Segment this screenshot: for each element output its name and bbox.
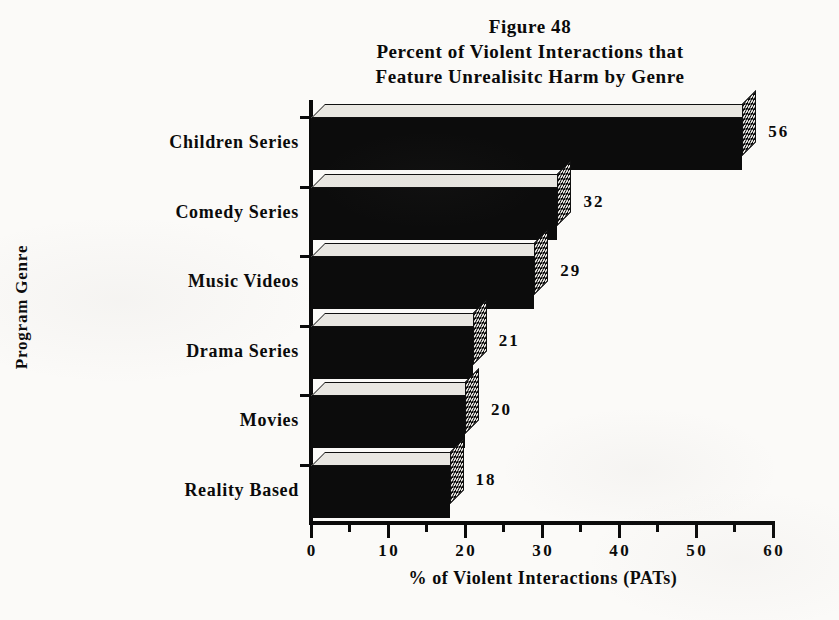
bar-value-label: 56 [766,122,789,142]
y-tick-3 [300,325,310,328]
bar-top-face [311,313,487,327]
category-label-music-videos: Music Videos [39,271,299,292]
y-tick-5 [300,464,310,467]
category-label-drama-series: Drama Series [39,341,299,362]
x-tick-label-10: 10 [358,541,418,561]
x-tick-label-50: 50 [666,541,726,561]
bar-front-face [311,466,450,518]
x-tick-55 [733,525,736,532]
x-tick-label-60: 60 [743,541,803,561]
bar-front-face [311,327,473,379]
x-tick-45 [656,525,659,532]
bar-value-label: 32 [581,192,604,212]
bar-value-label: 29 [558,261,581,281]
bar-value-label: 20 [489,400,512,420]
bar-top-face [311,243,548,257]
x-tick-label-20: 20 [435,541,495,561]
x-tick-60 [772,525,775,538]
x-tick-10 [387,525,390,538]
bar-end-cap-face [742,90,756,156]
bar-end-cap-face [534,229,548,295]
category-label-reality-based: Reality Based [39,480,299,501]
bar-front-face [311,118,742,170]
x-tick-40 [618,525,621,538]
bar-top-face [311,174,571,188]
bar-top-face [311,382,479,396]
x-tick-5 [348,525,351,532]
bar-top-face [311,452,464,466]
bar-front-face [311,396,465,448]
x-tick-15 [425,525,428,532]
category-label-movies: Movies [39,410,299,431]
y-tick-0 [300,116,310,119]
x-tick-30 [541,525,544,538]
category-label-comedy-series: Comedy Series [39,202,299,223]
y-tick-1 [300,186,310,189]
bar-front-face [311,257,534,309]
y-tick-4 [300,394,310,397]
figure-canvas: Figure 48 Percent of Violent Interaction… [0,0,839,620]
bar-value-label: 18 [474,470,497,490]
x-tick-25 [502,525,505,532]
bar-front-face [311,188,557,240]
x-tick-0 [310,525,313,538]
bar-value-label: 21 [497,331,520,351]
category-label-children-series: Children Series [39,132,299,153]
x-tick-label-0: 0 [281,541,341,561]
x-tick-20 [464,525,467,538]
x-tick-label-30: 30 [512,541,572,561]
x-tick-35 [579,525,582,532]
bar-top-face [311,104,756,118]
x-tick-50 [695,525,698,538]
y-tick-2 [300,255,310,258]
x-tick-label-40: 40 [589,541,649,561]
plot-area: 0102030405060 Children SeriesComedy Seri… [0,0,839,620]
